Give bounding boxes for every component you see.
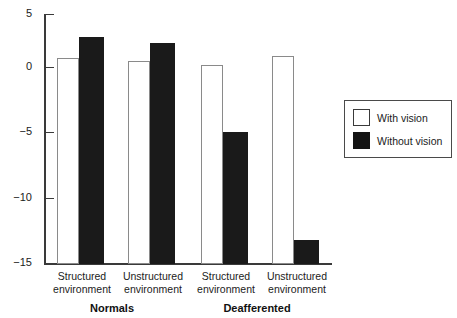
y-tick-m5: [46, 132, 54, 133]
y-tick-0: [46, 67, 54, 68]
y-axis-label-m5: −5: [0, 126, 32, 137]
bar-normals-unstructured-without-vision: [150, 43, 175, 264]
section-label-deafferented: Deafferented: [187, 302, 327, 314]
bar-deafferented-structured-with-vision: [201, 65, 223, 264]
legend-swatch-black-icon: [353, 132, 370, 149]
section-label-normals: Normals: [42, 302, 182, 314]
plot-area: 5 0 −5 −10 −15: [44, 14, 332, 264]
bar-deafferented-unstructured-with-vision: [272, 56, 294, 264]
legend-label-without-vision: Without vision: [377, 135, 442, 147]
bar-deafferented-unstructured-without-vision: [294, 240, 319, 264]
bar-normals-structured-with-vision: [57, 58, 79, 264]
legend: With vision Without vision: [344, 100, 452, 158]
y-axis-label-0: 0: [0, 61, 32, 72]
y-axis-label-m15: −15: [0, 257, 32, 268]
legend-swatch-white-icon: [353, 109, 370, 126]
y-axis-label-5: 5: [0, 8, 32, 19]
legend-entry-with-vision: With vision: [353, 109, 428, 126]
bar-chart-figure: 5 0 −5 −10 −15 Structured environment Un…: [0, 0, 457, 318]
x-label-line1: Unstructured: [242, 270, 352, 283]
y-axis-label-m10: −10: [0, 192, 32, 203]
y-tick-m10: [46, 198, 54, 199]
bar-deafferented-structured-without-vision: [223, 132, 248, 264]
bar-normals-structured-without-vision: [79, 37, 104, 264]
legend-entry-without-vision: Without vision: [353, 132, 442, 149]
x-label-line2: environment: [242, 283, 352, 296]
legend-label-with-vision: With vision: [377, 112, 428, 124]
y-axis-line: [44, 14, 46, 264]
x-label-deafferented-unstructured: Unstructured environment: [242, 270, 352, 296]
bar-normals-unstructured-with-vision: [128, 61, 150, 264]
y-tick-5: [46, 14, 54, 15]
